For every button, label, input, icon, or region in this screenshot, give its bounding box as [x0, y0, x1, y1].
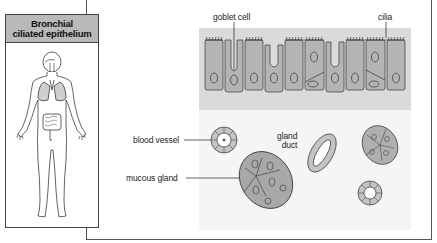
label-mucous-gland: mucous gland — [126, 173, 178, 183]
ciliated-cell — [387, 40, 405, 90]
label-blood-vessel: blood vessel — [133, 135, 179, 145]
diagram-canvas — [0, 0, 437, 243]
ciliated-cell — [305, 40, 324, 90]
ciliated-cell — [346, 40, 364, 90]
label-gland-duct-line2: duct — [277, 141, 297, 150]
ciliated-cell — [205, 40, 223, 90]
ciliated-cell — [285, 40, 303, 90]
ciliated-cell — [366, 40, 385, 90]
label-gland-duct: gland duct — [277, 132, 297, 150]
label-goblet-cell: goblet cell — [213, 12, 250, 22]
ciliated-cell — [245, 40, 263, 90]
duct-cross-section — [358, 181, 382, 205]
label-cilia: cilia — [378, 12, 392, 22]
human-body-icon — [17, 52, 86, 217]
blood-vessel — [211, 127, 237, 153]
